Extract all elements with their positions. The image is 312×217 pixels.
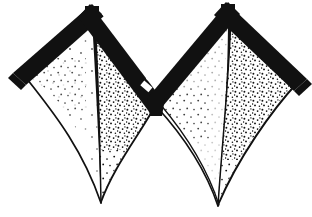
apex-right-cap [221, 4, 235, 18]
vault-drawing-svg: Twin peaked vault line drawing Two adjac… [0, 0, 312, 217]
apex-left-cap [85, 6, 99, 20]
valley-junction [147, 98, 165, 116]
figure-root: Twin peaked vault line drawing Two adjac… [0, 0, 312, 217]
